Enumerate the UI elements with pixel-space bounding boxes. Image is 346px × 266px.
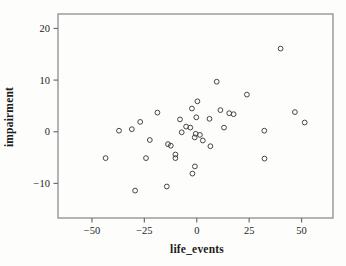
scatter-plot-figure: −50−2502550 −1001020 life_events impairm… <box>0 0 346 266</box>
data-point <box>147 138 152 143</box>
data-point <box>194 115 199 120</box>
x-tick-label: 0 <box>194 225 199 236</box>
data-point <box>222 125 227 130</box>
scatter-plot: −50−2502550 −1001020 life_events impairm… <box>0 0 346 266</box>
data-point <box>262 128 267 133</box>
y-tick-label: 10 <box>40 75 51 86</box>
data-point <box>245 92 250 97</box>
data-point <box>193 164 198 169</box>
y-axis-ticks: −1001020 <box>34 23 58 189</box>
data-point <box>155 110 160 115</box>
data-points <box>103 46 307 193</box>
data-point <box>190 106 195 111</box>
data-point <box>138 120 143 125</box>
x-axis-ticks: −50−2502550 <box>84 218 307 236</box>
data-point <box>195 99 200 104</box>
data-point <box>302 120 307 125</box>
plot-frame <box>58 14 333 218</box>
data-point <box>293 110 298 115</box>
data-point <box>133 188 138 193</box>
data-point <box>200 138 205 143</box>
y-tick-label: 0 <box>45 126 50 137</box>
x-axis-title: life_events <box>170 243 224 255</box>
data-point <box>179 130 184 135</box>
x-tick-label: 25 <box>244 225 255 236</box>
y-tick-label: 20 <box>40 23 51 34</box>
data-point <box>178 117 183 122</box>
data-point <box>262 156 267 161</box>
data-point <box>207 116 212 121</box>
data-point <box>190 171 195 176</box>
data-point <box>129 127 134 132</box>
data-point <box>103 156 108 161</box>
y-axis-title: impairment <box>3 87 16 147</box>
data-point <box>164 184 169 189</box>
x-tick-label: −25 <box>136 225 152 236</box>
data-point <box>278 46 283 51</box>
data-point <box>117 128 122 133</box>
x-tick-label: −50 <box>84 225 100 236</box>
data-point <box>218 108 223 113</box>
data-point <box>208 144 213 149</box>
y-tick-label: −10 <box>34 178 50 189</box>
data-point <box>144 156 149 161</box>
x-tick-label: 50 <box>296 225 307 236</box>
data-point <box>214 79 219 84</box>
